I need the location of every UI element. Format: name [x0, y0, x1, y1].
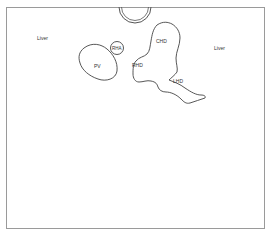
- label-lhd: LHD: [173, 78, 183, 84]
- label-pv: PV: [94, 63, 101, 69]
- frame-border: [7, 8, 265, 229]
- label-liver-right: Liver: [214, 45, 225, 51]
- duct-system-outline: [133, 22, 205, 103]
- label-liver-left: Liver: [37, 35, 48, 41]
- label-rha: RHA: [112, 46, 122, 51]
- top-semicircle-structure: [119, 7, 151, 23]
- label-rhd: RHD: [132, 62, 143, 68]
- diagram-canvas: Liver Liver PV RHA CHD RHD LHD: [0, 0, 273, 241]
- label-chd: CHD: [156, 38, 167, 44]
- liver-hilum-diagram: Liver Liver PV RHA CHD RHD LHD: [0, 0, 273, 241]
